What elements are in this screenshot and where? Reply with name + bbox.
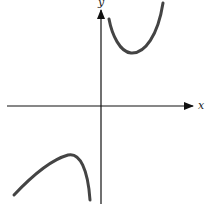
- lower-branch-curve: [14, 155, 90, 200]
- graph-canvas: [0, 0, 207, 204]
- y-axis-label: y: [98, 0, 104, 9]
- upper-branch-curve: [109, 3, 163, 53]
- x-axis-label: x: [198, 99, 204, 112]
